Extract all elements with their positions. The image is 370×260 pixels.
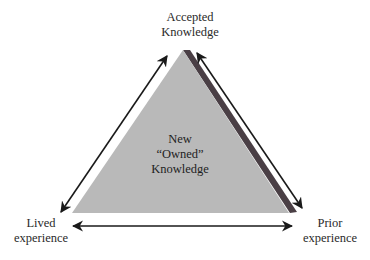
node-label-line: Lived: [6, 216, 76, 231]
node-label-line: Prior: [290, 216, 370, 231]
node-label-line: experience: [290, 231, 370, 246]
node-label-line: Knowledge: [130, 25, 250, 40]
node-label-line: New: [130, 132, 230, 147]
node-new-owned-knowledge: New “Owned” Knowledge: [130, 132, 230, 177]
node-lived-experience: Lived experience: [6, 216, 76, 246]
node-accepted-knowledge: Accepted Knowledge: [130, 10, 250, 40]
node-label-line: “Owned”: [130, 147, 230, 162]
node-prior-experience: Prior experience: [290, 216, 370, 246]
node-label-line: Knowledge: [130, 162, 230, 177]
node-label-line: experience: [6, 231, 76, 246]
node-label-line: Accepted: [130, 10, 250, 25]
